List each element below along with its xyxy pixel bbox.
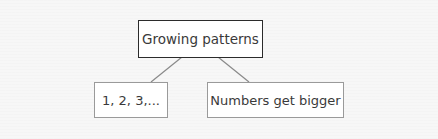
child-node-numbers-bigger: Numbers get bigger: [207, 82, 344, 118]
connector-root-to-left: [151, 57, 182, 82]
child-node-label: Numbers get bigger: [210, 93, 340, 108]
connector-root-to-right: [218, 57, 249, 82]
child-node-sequence: 1, 2, 3,...: [94, 82, 168, 118]
root-node-label: Growing patterns: [142, 31, 259, 47]
root-node: Growing patterns: [138, 20, 263, 58]
child-node-label: 1, 2, 3,...: [102, 93, 160, 108]
